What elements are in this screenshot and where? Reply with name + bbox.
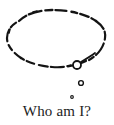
tail-circle-small bbox=[71, 96, 74, 99]
canvas-background bbox=[0, 0, 114, 105]
tail-circle-large bbox=[73, 61, 81, 69]
caption-text: Who am I? bbox=[0, 102, 114, 121]
tail-circle-medium bbox=[79, 81, 84, 86]
thought-bubble-drawing bbox=[0, 0, 114, 105]
thought-bubble-illustration: Who am I? bbox=[0, 0, 114, 125]
